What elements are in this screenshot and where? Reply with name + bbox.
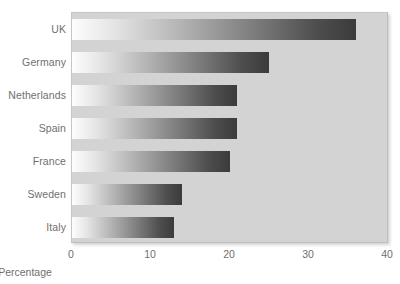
category-label-germany: Germany — [0, 57, 66, 68]
category-label-sweden: Sweden — [0, 189, 66, 200]
bar-row — [72, 151, 230, 172]
bar-italy — [72, 217, 174, 238]
x-tick-label: 0 — [51, 249, 91, 260]
bar-uk — [72, 19, 356, 40]
bar-row — [72, 19, 356, 40]
x-axis-title-text: Percentage — [0, 266, 52, 278]
bar-spain — [72, 118, 237, 139]
category-label-netherlands: Netherlands — [0, 90, 66, 101]
x-tick-label: 30 — [288, 249, 328, 260]
bar-row — [72, 85, 237, 106]
category-label-uk: UK — [0, 24, 66, 35]
category-label-italy: Italy — [0, 222, 66, 233]
bar-row — [72, 217, 174, 238]
bar-sweden — [72, 184, 182, 205]
bar-row — [72, 118, 237, 139]
x-tick-label: 10 — [130, 249, 170, 260]
x-tick-label: 20 — [209, 249, 249, 260]
category-label-france: France — [0, 156, 66, 167]
bar-chart: UK Germany Netherlands Spain France Swed… — [0, 0, 400, 284]
x-axis-title: Percentage — [0, 267, 400, 278]
category-label-spain: Spain — [0, 123, 66, 134]
x-tick-label: 40 — [367, 249, 400, 260]
bar-row — [72, 184, 182, 205]
bar-netherlands — [72, 85, 237, 106]
bar-row — [72, 52, 269, 73]
bar-germany — [72, 52, 269, 73]
bar-france — [72, 151, 230, 172]
plot-area — [71, 12, 388, 243]
